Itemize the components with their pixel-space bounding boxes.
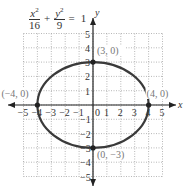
y-tick-label: −1 bbox=[80, 114, 91, 125]
x-axis-label: x bbox=[177, 99, 183, 110]
point-marker bbox=[90, 60, 95, 65]
x-tick-label: −2 bbox=[59, 107, 70, 118]
ellipse-plot: xy −5−4−3−2−101234554321−1−2−3−4−5 (3, 0… bbox=[0, 0, 183, 187]
x-tick-label: 3 bbox=[132, 107, 137, 118]
x-tick-label: −5 bbox=[18, 107, 29, 118]
x-axis-arrow-right-icon bbox=[169, 102, 176, 108]
y-tick-label: 2 bbox=[85, 71, 90, 82]
y-tick-label: 5 bbox=[85, 29, 90, 40]
point-marker bbox=[90, 145, 95, 150]
y-axis-label: y bbox=[94, 7, 100, 18]
point-label: (3, 0) bbox=[97, 45, 119, 57]
x-tick-label: 5 bbox=[160, 107, 165, 118]
point-marker bbox=[35, 102, 40, 107]
y-tick-label: 1 bbox=[85, 86, 90, 97]
y-axis-arrow-down-icon bbox=[90, 179, 96, 186]
y-tick-label: −4 bbox=[80, 157, 91, 168]
point-label: (−4, 0) bbox=[1, 88, 28, 100]
point-marker bbox=[146, 102, 151, 107]
x-tick-label: 0 bbox=[95, 107, 100, 118]
point-label: (0, −3) bbox=[97, 149, 124, 161]
y-tick-label: −5 bbox=[80, 172, 91, 183]
y-tick-label: −2 bbox=[80, 129, 91, 140]
point-label: (4, 0) bbox=[147, 88, 169, 100]
y-tick-label: 4 bbox=[85, 43, 90, 54]
x-axis-arrow-left-icon bbox=[8, 102, 15, 108]
x-tick-label: 1 bbox=[104, 107, 109, 118]
y-axis-arrow-up-icon bbox=[90, 18, 96, 25]
x-tick-label: 2 bbox=[118, 107, 123, 118]
x-tick-label: −3 bbox=[45, 107, 56, 118]
